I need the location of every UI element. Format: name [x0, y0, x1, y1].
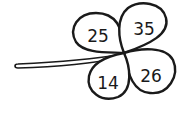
- leaf-top-left-value: 25: [87, 26, 109, 46]
- leaf-bottom-left-value: 14: [97, 73, 119, 93]
- clover-diagram: 25 35 26 14: [0, 0, 184, 120]
- leaf-top-left: 25: [73, 13, 124, 53]
- leaf-bottom-right: 26: [124, 49, 175, 93]
- leaf-top-right-value: 35: [133, 19, 155, 39]
- leaf-bottom-right-value: 26: [140, 66, 162, 86]
- leaf-top-right: 35: [119, 3, 166, 53]
